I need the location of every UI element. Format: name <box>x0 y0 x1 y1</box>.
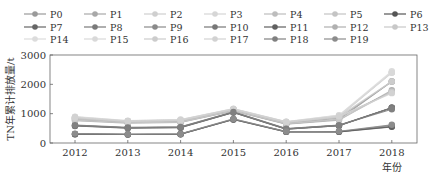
x-tick-label: 2018 <box>379 147 404 158</box>
data-point <box>336 113 342 119</box>
legend-marker-icon <box>392 11 398 17</box>
legend-item-p11[interactable]: P11 <box>264 22 308 33</box>
y-tick-label: 1000 <box>21 108 46 119</box>
data-point <box>336 122 342 128</box>
legend-label: P3 <box>230 9 242 20</box>
legend-marker-icon <box>32 24 38 30</box>
legend-label: P4 <box>290 9 302 20</box>
legend-label: P10 <box>230 22 248 33</box>
legend-marker-icon <box>212 36 218 42</box>
y-tick-label: 0 <box>40 138 46 149</box>
legend-label: P9 <box>170 22 182 33</box>
legend-marker-icon <box>212 24 218 30</box>
data-point <box>125 124 131 130</box>
legend-label: P8 <box>110 22 122 33</box>
legend-label: P18 <box>290 34 308 45</box>
legend-marker-icon <box>32 11 38 17</box>
y-axis: 0100020003000 <box>21 50 53 149</box>
x-tick-label: 2016 <box>273 147 298 158</box>
legend-item-p18[interactable]: P18 <box>264 34 308 45</box>
y-tick-label: 3000 <box>21 50 46 61</box>
data-point <box>283 128 289 134</box>
y-axis-label: TN年累计排放量/t <box>4 58 16 141</box>
legend-item-p4[interactable]: P4 <box>264 9 302 20</box>
legend-marker-icon <box>92 11 98 17</box>
legend-marker-icon <box>152 11 158 17</box>
legend-marker-icon <box>152 24 158 30</box>
legend-marker-icon <box>92 36 98 42</box>
y-tick-label: 2000 <box>21 79 46 90</box>
legend: P0P1P2P3P4P5P6P7P8P9P10P11P12P13P14P15P1… <box>24 9 428 45</box>
data-point <box>389 122 395 128</box>
x-tick-label: 2015 <box>221 147 246 158</box>
x-tick-label: 2012 <box>62 147 87 158</box>
legend-label: P17 <box>230 34 248 45</box>
legend-item-p14[interactable]: P14 <box>24 34 68 45</box>
data-point <box>389 90 395 96</box>
legend-marker-icon <box>32 36 38 42</box>
data-point <box>72 130 78 136</box>
data-point <box>177 117 183 123</box>
legend-item-p7[interactable]: P7 <box>24 22 62 33</box>
legend-item-p16[interactable]: P16 <box>144 34 188 45</box>
legend-label: P19 <box>350 34 368 45</box>
legend-marker-icon <box>272 24 278 30</box>
legend-marker-icon <box>152 36 158 42</box>
x-tick-label: 2013 <box>115 147 140 158</box>
legend-marker-icon <box>332 24 338 30</box>
data-point <box>230 109 236 115</box>
data-point <box>389 78 395 84</box>
legend-item-p9[interactable]: P9 <box>144 22 182 33</box>
data-point <box>177 131 183 137</box>
legend-item-p12[interactable]: P12 <box>324 22 368 33</box>
data-point <box>72 122 78 128</box>
legend-label: P16 <box>170 34 188 45</box>
legend-label: P2 <box>170 9 182 20</box>
legend-label: P12 <box>350 22 368 33</box>
legend-marker-icon <box>212 11 218 17</box>
legend-item-p15[interactable]: P15 <box>84 34 128 45</box>
legend-item-p8[interactable]: P8 <box>84 22 122 33</box>
line-chart: P0P1P2P3P4P5P6P7P8P9P10P11P12P13P14P15P1… <box>0 0 433 176</box>
legend-label: P1 <box>110 9 122 20</box>
legend-label: P15 <box>110 34 128 45</box>
data-point <box>283 119 289 125</box>
data-point <box>336 128 342 134</box>
x-axis-label: 年份 <box>382 161 402 173</box>
legend-label: P11 <box>290 22 308 33</box>
legend-label: P5 <box>350 9 362 20</box>
legend-marker-icon <box>272 11 278 17</box>
legend-item-p3[interactable]: P3 <box>204 9 242 20</box>
x-tick-label: 2014 <box>168 147 193 158</box>
data-point <box>125 131 131 137</box>
legend-item-p1[interactable]: P1 <box>84 9 122 20</box>
series-group <box>72 68 395 138</box>
legend-label: P6 <box>410 9 422 20</box>
legend-marker-icon <box>92 24 98 30</box>
legend-marker-icon <box>332 11 338 17</box>
legend-item-p17[interactable]: P17 <box>204 34 248 45</box>
legend-label: P7 <box>50 22 62 33</box>
legend-item-p19[interactable]: P19 <box>324 34 368 45</box>
data-point <box>230 116 236 122</box>
x-tick-label: 2017 <box>326 147 351 158</box>
legend-item-p10[interactable]: P10 <box>204 22 248 33</box>
legend-marker-icon <box>272 36 278 42</box>
legend-marker-icon <box>392 24 398 30</box>
data-point <box>389 106 395 112</box>
legend-item-p2[interactable]: P2 <box>144 9 182 20</box>
data-point <box>389 69 395 75</box>
legend-item-p6[interactable]: P6 <box>384 9 422 20</box>
legend-label: P14 <box>50 34 68 45</box>
legend-marker-icon <box>332 36 338 42</box>
legend-item-p0[interactable]: P0 <box>24 9 62 20</box>
data-point <box>125 118 131 124</box>
legend-label: P0 <box>50 9 62 20</box>
legend-label: P13 <box>410 22 428 33</box>
legend-item-p13[interactable]: P13 <box>384 22 428 33</box>
data-point <box>72 114 78 120</box>
legend-item-p5[interactable]: P5 <box>324 9 362 20</box>
data-point <box>177 124 183 130</box>
